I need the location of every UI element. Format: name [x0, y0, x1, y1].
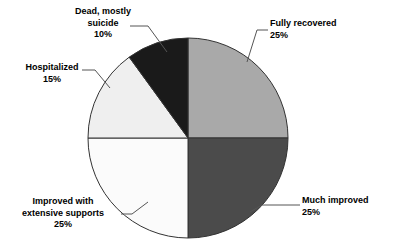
pie-label-improved-line2: extensive supports	[22, 208, 104, 218]
pie-label-hospitalized-percent: 15%	[6, 74, 98, 86]
pie-label-improved-percent: 25%	[4, 219, 122, 231]
pie-label-much-line1: Much improved	[302, 195, 369, 205]
pie-label-improved-with-extensive-supports: Improved with extensive supports 25%	[4, 196, 122, 231]
pie-label-improved-line1: Improved with	[32, 196, 93, 206]
pie-label-dead-line2: suicide	[87, 18, 118, 28]
pie-label-dead-mostly-suicide: Dead, mostly suicide 10%	[60, 6, 146, 41]
pie-chart-figure: Dead, mostly suicide 10% Fully recovered…	[0, 0, 396, 247]
pie-label-dead-percent: 10%	[60, 29, 146, 41]
pie-label-hospitalized-line1: Hospitalized	[25, 62, 78, 72]
pie-label-fully-recovered: Fully recovered 25%	[270, 18, 380, 41]
pie-slice-fully-recovered	[188, 38, 288, 138]
pie-slice-much-improved	[188, 138, 288, 238]
pie-label-fully-line1: Fully recovered	[270, 18, 337, 28]
pie-label-fully-percent: 25%	[270, 30, 380, 42]
pie-label-dead-line1: Dead, mostly	[75, 6, 131, 16]
pie-label-much-percent: 25%	[302, 207, 394, 219]
pie-label-much-improved: Much improved 25%	[302, 195, 394, 218]
pie-label-hospitalized: Hospitalized 15%	[6, 62, 98, 85]
leader-line-fully-recovered	[247, 30, 268, 62]
